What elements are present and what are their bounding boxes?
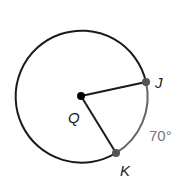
label-k: K — [120, 162, 131, 179]
point-k — [112, 149, 120, 157]
arc-measure-label: 70° — [149, 127, 172, 144]
center-point-q — [77, 92, 85, 100]
radius-qk — [81, 96, 116, 153]
radius-qj — [81, 82, 146, 96]
label-j: J — [154, 74, 163, 91]
label-q: Q — [68, 109, 80, 126]
circle-diagram: Q J K 70° — [0, 0, 187, 182]
minor-arc-jk — [116, 82, 148, 153]
point-j — [142, 78, 150, 86]
